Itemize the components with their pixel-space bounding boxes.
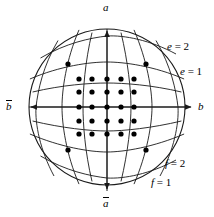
lattice-dot bbox=[118, 118, 123, 123]
lattice-dot bbox=[118, 131, 123, 136]
lattice-dot bbox=[131, 89, 136, 94]
lattice-dot bbox=[131, 118, 136, 123]
lattice-dot bbox=[118, 104, 123, 109]
curve-f-bottom-3 bbox=[41, 156, 177, 178]
lattice-dot bbox=[76, 89, 81, 94]
lattice-dot bbox=[89, 104, 94, 109]
hyperbolic-disk-figure: a a b b e = 2 e = 1 f = 2 f = 1 bbox=[0, 0, 214, 217]
lattice-dot bbox=[118, 89, 123, 94]
lattice-dot-outer bbox=[65, 61, 70, 66]
lattice-dot bbox=[89, 131, 94, 136]
lattice-dot-outer bbox=[143, 61, 148, 66]
lattice-dot bbox=[104, 118, 109, 123]
curve-label-f2: f = 2 bbox=[165, 158, 185, 169]
lattice-dot bbox=[131, 131, 136, 136]
lattice-dot bbox=[89, 76, 94, 81]
lattice-dot bbox=[89, 118, 94, 123]
lattice-dot bbox=[76, 118, 81, 123]
lattice-dot-outer bbox=[65, 147, 70, 152]
curve-label-f1: f = 1 bbox=[151, 177, 171, 188]
lattice-dot bbox=[104, 76, 109, 81]
curve-label-e1: e = 1 bbox=[180, 66, 202, 77]
lattice-dot bbox=[118, 76, 123, 81]
lattice-dot bbox=[104, 104, 109, 109]
lattice-dot bbox=[104, 131, 109, 136]
figure-canvas bbox=[0, 0, 214, 217]
curve-e-right-3 bbox=[156, 41, 178, 177]
lattice-dot bbox=[76, 104, 81, 109]
axis-label-b: b bbox=[198, 101, 204, 112]
lattice-dot bbox=[76, 76, 81, 81]
curve-f-top-3 bbox=[41, 36, 177, 58]
axis-label-a: a bbox=[103, 2, 109, 13]
lattice-dot bbox=[76, 131, 81, 136]
lattice-dot bbox=[131, 104, 136, 109]
curve-label-e2: e = 2 bbox=[167, 41, 189, 52]
lattice-dot bbox=[104, 89, 109, 94]
lattice-dot bbox=[131, 76, 136, 81]
lattice-dot bbox=[89, 89, 94, 94]
axis-label-a-bar: a bbox=[103, 198, 109, 209]
curve-e-left-3 bbox=[36, 41, 58, 177]
axis-label-b-bar: b bbox=[6, 101, 12, 112]
lattice-dot-outer bbox=[143, 147, 148, 152]
